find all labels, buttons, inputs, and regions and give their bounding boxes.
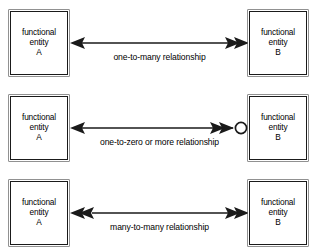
relationship-caption: one-to-many relationship [70, 52, 249, 62]
entity-label-line3: B [275, 48, 280, 58]
connector-one-to-zero-or-more [70, 127, 249, 129]
relationship-caption: many-to-many relationship [70, 222, 249, 232]
relationship-row-many-to-many: functional entity A many-to-many relatio… [0, 181, 317, 245]
relationship-caption: one-to-zero or more relationship [70, 137, 249, 147]
zero-cardinality-circle-icon [235, 122, 246, 133]
connector-many-to-many [70, 212, 249, 214]
entity-box-b: functional entity B [249, 11, 307, 75]
entity-label-line3: A [36, 218, 41, 228]
entity-box-a: functional entity A [10, 181, 68, 245]
entity-label-line3: B [275, 218, 280, 228]
connector-one-to-many [70, 42, 249, 44]
entity-label-line3: A [36, 133, 41, 143]
relationship-row-one-to-many: functional entity A one-to-many relation… [0, 11, 317, 75]
entity-relationship-diagram: functional entity A one-to-many relation… [0, 0, 317, 252]
entity-box-a: functional entity A [10, 11, 68, 75]
entity-box-b: functional entity B [249, 96, 307, 160]
entity-box-a: functional entity A [10, 96, 68, 160]
entity-box-b: functional entity B [249, 181, 307, 245]
entity-label-line3: B [275, 133, 280, 143]
entity-label-line3: A [36, 48, 41, 58]
relationship-row-one-to-zero-or-more: functional entity A one-to-zero or more … [0, 96, 317, 160]
